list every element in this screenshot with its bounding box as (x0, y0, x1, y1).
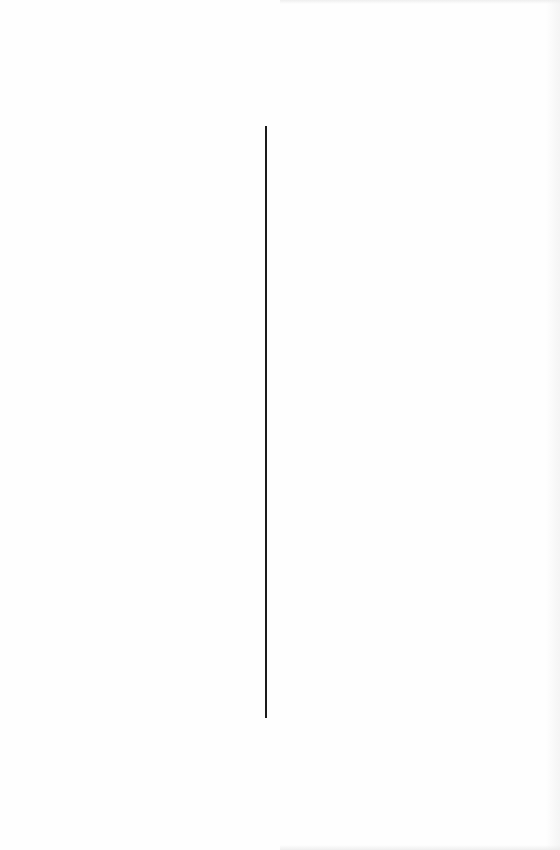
vertical-divider-rule (265, 126, 267, 718)
scan-shadow-top (280, 0, 560, 4)
document-page (0, 0, 560, 850)
scan-shadow-right (546, 0, 560, 850)
scan-shadow-bottom (280, 845, 560, 850)
